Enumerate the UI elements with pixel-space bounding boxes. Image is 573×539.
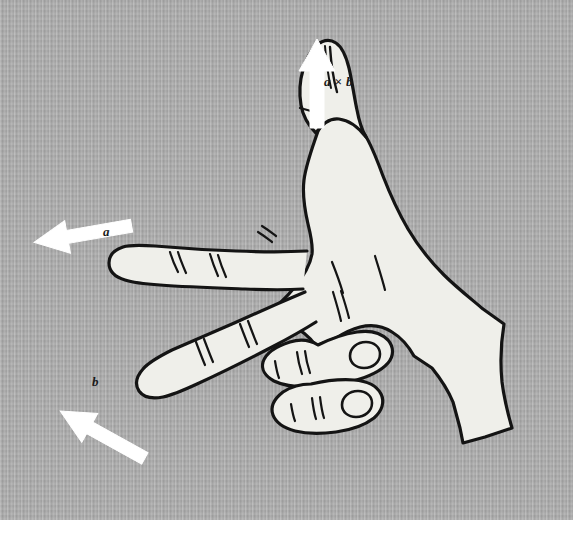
palm-crease-6 bbox=[258, 232, 272, 242]
right-hand-rule-illustration bbox=[0, 0, 573, 539]
vector-label-a: a bbox=[103, 224, 110, 240]
index-finger bbox=[109, 245, 307, 289]
vector-label-a-cross-b: a × b bbox=[324, 74, 353, 90]
figure-root: a × b a b bbox=[0, 0, 573, 539]
folded-little-finger bbox=[272, 380, 383, 434]
arrow-b bbox=[52, 397, 153, 473]
palm-crease-5 bbox=[262, 226, 276, 236]
vector-label-b: b bbox=[92, 374, 99, 390]
